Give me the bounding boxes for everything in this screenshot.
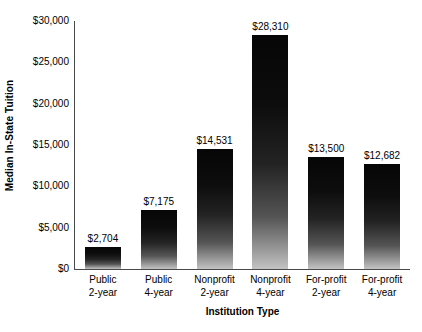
- bar-value-label: $14,531: [196, 135, 232, 146]
- y-axis-tick-label: $0: [58, 264, 69, 274]
- y-axis-tick-label: $5,000: [38, 223, 69, 233]
- bar-value-label: $2,704: [88, 233, 119, 244]
- x-axis-tick-label: For-profit2-year: [298, 273, 354, 299]
- bar-value-label: $13,500: [308, 143, 344, 154]
- y-axis-title: Median In-State Tuition: [0, 0, 20, 270]
- x-axis-tick-label-line2: 4-year: [243, 286, 299, 299]
- bar[interactable]: [308, 157, 344, 269]
- bar[interactable]: [85, 247, 121, 269]
- x-axis-title: Institution Type: [75, 306, 410, 317]
- bar-group: $13,500: [298, 21, 354, 269]
- y-axis-tick-label: $30,000: [33, 16, 69, 26]
- bar[interactable]: [197, 149, 233, 269]
- bar-value-label: $7,175: [143, 196, 174, 207]
- x-axis-tick-label-line1: Nonprofit: [187, 273, 243, 286]
- bar-group: $14,531: [187, 21, 243, 269]
- bar-value-label: $12,682: [364, 150, 400, 161]
- x-axis-tick-label: Nonprofit2-year: [187, 273, 243, 299]
- bar-group: $28,310: [243, 21, 299, 269]
- y-axis-tick-labels: $0$5,000$10,000$15,000$20,000$25,000$30,…: [20, 21, 72, 269]
- bar-group: $2,704: [75, 21, 131, 269]
- x-axis-line: [74, 269, 410, 270]
- bar-chart: Median In-State Tuition $0$5,000$10,000$…: [0, 0, 422, 332]
- x-axis-tick-label-line1: For-profit: [298, 273, 354, 286]
- x-axis-tick-label-line2: 2-year: [187, 286, 243, 299]
- x-axis-tick-label: Nonprofit4-year: [243, 273, 299, 299]
- bar[interactable]: [364, 164, 400, 269]
- y-axis-tick-label: $20,000: [33, 99, 69, 109]
- x-axis-tick-label-line2: 2-year: [75, 286, 131, 299]
- bar[interactable]: [252, 35, 288, 269]
- x-axis-tick-label-line1: Public: [75, 273, 131, 286]
- bar-value-label: $28,310: [252, 21, 288, 32]
- x-axis-tick-label: Public2-year: [75, 273, 131, 299]
- y-axis-tick-label: $15,000: [33, 140, 69, 150]
- bar-group: $12,682: [354, 21, 410, 269]
- x-axis-tick-label: Public4-year: [131, 273, 187, 299]
- x-axis-tick-label-line1: Public: [131, 273, 187, 286]
- y-axis-tick-label: $10,000: [33, 181, 69, 191]
- plot-area: $2,704$7,175$14,531$28,310$13,500$12,682: [75, 21, 410, 269]
- x-axis-tick-label-line2: 4-year: [354, 286, 410, 299]
- x-axis-tick-label-line2: 4-year: [131, 286, 187, 299]
- x-axis-tick-label-line1: For-profit: [354, 273, 410, 286]
- x-axis-tick-label-line1: Nonprofit: [243, 273, 299, 286]
- x-axis-tick-label: For-profit4-year: [354, 273, 410, 299]
- y-axis-tick-label: $25,000: [33, 57, 69, 67]
- bar[interactable]: [141, 210, 177, 269]
- bar-group: $7,175: [131, 21, 187, 269]
- x-axis-tick-labels: Public2-yearPublic4-yearNonprofit2-yearN…: [75, 273, 410, 303]
- y-axis-title-text: Median In-State Tuition: [5, 79, 16, 191]
- x-axis-tick-label-line2: 2-year: [298, 286, 354, 299]
